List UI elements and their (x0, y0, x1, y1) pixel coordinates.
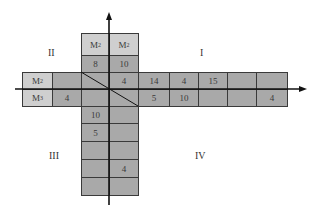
x-axis-arrow-icon (299, 86, 307, 92)
matrix-diagram: M2M28101054M2M344145410154IIIIIIIV (0, 0, 320, 217)
y-axis-arrow-icon (106, 12, 112, 20)
axes-layer (0, 0, 320, 217)
